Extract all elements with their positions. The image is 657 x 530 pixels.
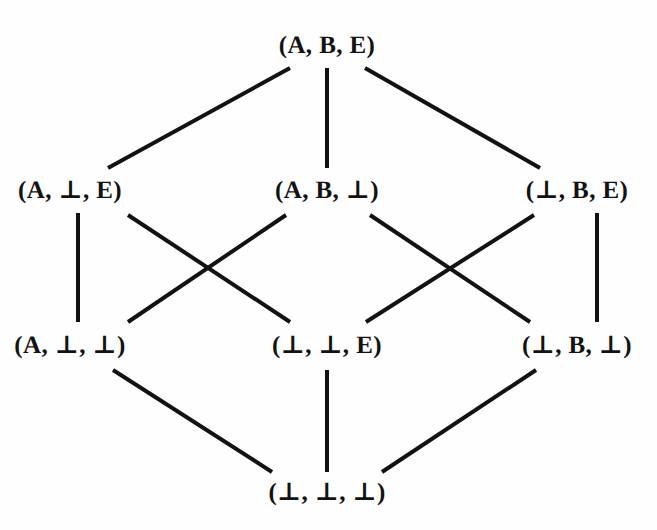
lattice-diagram: (A, B, E)(A, ⊥, E)(A, B, ⊥)(⊥, B, E)(A, …	[0, 0, 657, 530]
lattice-node-a__: (A, ⊥, ⊥)	[14, 333, 125, 358]
lattice-edge-layer	[0, 0, 657, 530]
lattice-edge-_b_-___	[382, 370, 536, 472]
lattice-edge-a__-___	[113, 370, 272, 472]
lattice-node-abe: (A, B, E)	[279, 33, 376, 58]
lattice-node-a_e: (A, ⊥, E)	[18, 178, 122, 203]
lattice-edge-abe-_be	[365, 68, 540, 168]
lattice-node-___: (⊥, ⊥, ⊥)	[268, 480, 385, 505]
lattice-node-ab_: (A, B, ⊥)	[275, 178, 379, 203]
lattice-node-__e: (⊥, ⊥, E)	[272, 333, 382, 358]
lattice-node-_be: (⊥, B, E)	[526, 178, 629, 203]
lattice-edge-abe-a_e	[108, 68, 290, 168]
lattice-node-_b_: (⊥, B, ⊥)	[522, 333, 632, 358]
